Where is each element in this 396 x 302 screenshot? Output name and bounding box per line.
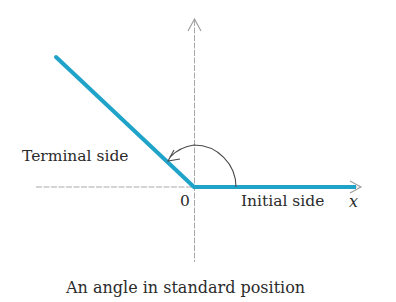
initial-side-label: Initial side (241, 194, 324, 210)
angle-arc (170, 145, 236, 187)
figure-caption: An angle in standard position (66, 280, 305, 296)
x-axis-label: x (349, 194, 358, 210)
angle-arc-arrow-icon (168, 150, 180, 161)
terminal-side-ray (56, 57, 194, 187)
terminal-side-label: Terminal side (22, 149, 129, 165)
origin-label: 0 (180, 194, 190, 210)
